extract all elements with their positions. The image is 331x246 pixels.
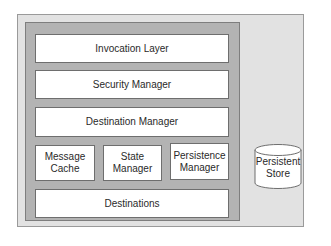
message-cache-label-line1: Message: [45, 151, 86, 163]
persistent-store-label: Persistent Store: [254, 156, 302, 180]
message-cache-label-line2: Cache: [51, 163, 80, 175]
state-manager-label-line1: State: [121, 151, 144, 163]
persistence-manager-label-line2: Manager: [180, 162, 219, 174]
security-manager-label: Security Manager: [93, 79, 171, 91]
persistent-store-label-line2: Store: [254, 168, 302, 180]
invocation-layer-label: Invocation Layer: [95, 43, 168, 55]
security-manager-box: Security Manager: [35, 70, 229, 99]
persistent-store-label-line1: Persistent: [254, 156, 302, 168]
invocation-layer-box: Invocation Layer: [35, 34, 229, 63]
persistence-manager-box: Persistence Manager: [170, 143, 229, 180]
destination-manager-box: Destination Manager: [35, 107, 229, 137]
persistence-manager-label-line1: Persistence: [173, 150, 225, 162]
state-manager-box: State Manager: [103, 145, 162, 181]
destinations-label: Destinations: [104, 198, 159, 210]
message-cache-box: Message Cache: [35, 145, 95, 181]
destination-manager-label: Destination Manager: [86, 116, 178, 128]
state-manager-label-line2: Manager: [113, 163, 152, 175]
destinations-box: Destinations: [35, 189, 229, 218]
